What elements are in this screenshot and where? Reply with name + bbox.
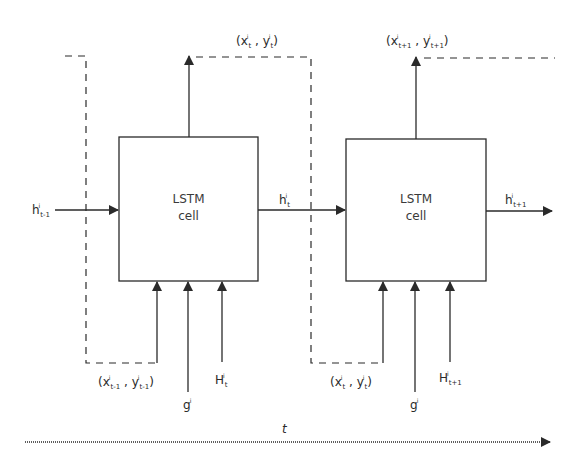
input-xy-label-2: (xit , yit): [330, 375, 372, 391]
lstm-cell-2-label: LSTM cell: [346, 191, 486, 225]
g-label-1: gi: [183, 398, 191, 411]
lstm-diagram: [0, 0, 579, 463]
H-label-1: Hit: [215, 373, 227, 389]
output-label-2: (xit+1 , yit+1): [386, 34, 449, 50]
g-label-2: gi: [410, 398, 418, 411]
cell-1-line2: cell: [119, 208, 258, 225]
lstm-cell-1-label: LSTM cell: [119, 191, 258, 225]
cell-2-line2: cell: [346, 208, 486, 225]
cell-1-line1: LSTM: [119, 191, 258, 208]
cell-2-line1: LSTM: [346, 191, 486, 208]
output-label-1: (xit , yit): [236, 34, 278, 50]
H-label-2: Hit+1: [439, 371, 462, 387]
h-next-label: hit+1: [505, 193, 526, 209]
h-prev-label: hit-1: [32, 203, 50, 219]
h-mid-label: hit: [279, 193, 290, 209]
input-xy-label-1: (xit-1 , yit-1): [98, 375, 154, 391]
time-axis-label: t: [282, 422, 287, 436]
